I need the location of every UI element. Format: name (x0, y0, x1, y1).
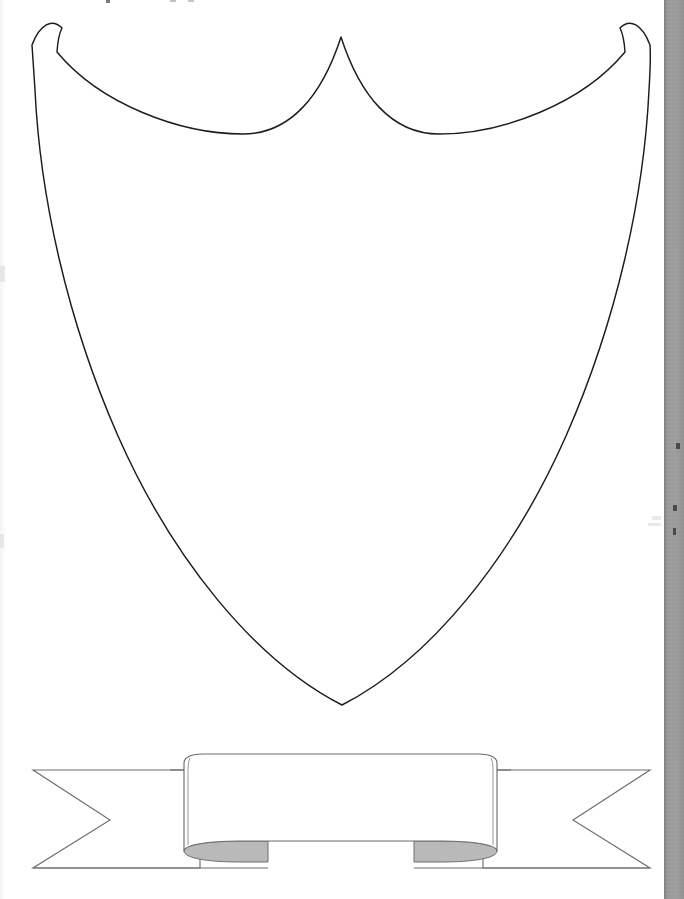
gutter-speck (676, 443, 680, 449)
gutter-speck (673, 505, 677, 511)
shield-graphic (32, 23, 650, 705)
artwork-layer (0, 0, 684, 899)
scanner-gutter-edge (664, 0, 666, 899)
gutter-speck (673, 528, 676, 535)
page-canvas (0, 0, 684, 899)
banner-left-tail (33, 770, 200, 868)
scanner-gutter-bar (664, 0, 684, 899)
banner-right-tail (483, 770, 650, 868)
banner-center-panel (184, 754, 497, 851)
shield-outline-path (32, 23, 650, 705)
banner-graphic (33, 754, 650, 868)
